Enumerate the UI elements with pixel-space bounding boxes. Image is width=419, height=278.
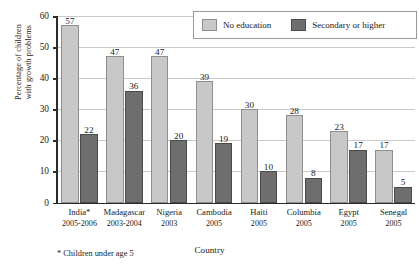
- x-tick-country: Egypt: [326, 207, 371, 218]
- x-tick-country: Cambodia: [192, 207, 237, 218]
- x-tick-year: 2005: [326, 218, 371, 229]
- bar: 17: [375, 150, 393, 203]
- x-axis-tick-labels: India*2005-2006Madagascar2003-2004Nigeri…: [56, 207, 415, 235]
- bar: 19: [215, 143, 233, 202]
- legend-swatch-no-education: [202, 19, 217, 31]
- bar-value-label: 19: [219, 134, 228, 144]
- bar: 47: [106, 56, 124, 202]
- bar-value-label: 22: [84, 125, 93, 135]
- bar-value-label: 17: [379, 140, 388, 150]
- x-tick-label: Cambodia2005: [192, 207, 237, 229]
- y-tick-label-10: 10: [40, 166, 49, 176]
- x-tick-country: Columbia: [281, 207, 326, 218]
- bar: 23: [330, 131, 348, 202]
- bar-value-label: 47: [110, 47, 119, 57]
- bar: 10: [260, 171, 278, 202]
- bar-group: 4720: [147, 16, 192, 203]
- plot-area: 0102030405060 57224736472039193010288231…: [56, 16, 415, 204]
- bar-value-label: 47: [155, 47, 164, 57]
- y-tick-label-60: 60: [40, 11, 49, 21]
- bar: 28: [286, 115, 304, 202]
- bar-value-label: 10: [264, 162, 273, 172]
- y-axis-title-line-1: Percentage of children: [14, 24, 24, 100]
- bar-value-label: 17: [354, 140, 363, 150]
- x-tick-country: Madagascar: [102, 207, 147, 218]
- bar: 30: [241, 109, 259, 202]
- bar: 57: [61, 25, 79, 202]
- bar-value-label: 28: [290, 106, 299, 116]
- bar-groups: 572247364720391930102882317175: [56, 16, 415, 203]
- bar-group: 2317: [326, 16, 371, 203]
- x-tick-label: Columbia2005: [281, 207, 326, 229]
- bar-value-label: 8: [311, 168, 316, 178]
- bar: 8: [305, 178, 323, 203]
- bar-chart: Percentage of children with growth probl…: [0, 0, 419, 278]
- bar: 22: [80, 134, 98, 202]
- y-axis-title-line-2: with growth problems: [24, 25, 34, 99]
- x-tick-label: Haiti2005: [237, 207, 282, 229]
- bar-value-label: 57: [65, 16, 74, 26]
- legend-item-no-education: No education: [202, 19, 271, 31]
- bar-group: 175: [371, 16, 416, 203]
- legend-swatch-secondary-or-higher: [291, 19, 306, 31]
- x-tick-label: Egypt2005: [326, 207, 371, 229]
- bar: 20: [170, 140, 188, 202]
- x-tick-year: 2005: [192, 218, 237, 229]
- x-tick-country: India*: [57, 207, 102, 218]
- legend-label-no-education: No education: [223, 20, 271, 30]
- bar-group: 3919: [192, 16, 237, 203]
- bar: 47: [151, 56, 169, 202]
- bar-group: 4736: [102, 16, 147, 203]
- x-tick-label: Senegal2005: [371, 207, 416, 229]
- x-tick-label: India*2005-2006: [57, 207, 102, 229]
- x-tick-year: 2005: [371, 218, 416, 229]
- bar-value-label: 36: [129, 81, 138, 91]
- bar-value-label: 20: [174, 131, 183, 141]
- y-tick-label-0: 0: [44, 198, 49, 208]
- x-tick-country: Senegal: [371, 207, 416, 218]
- bar: 17: [349, 150, 367, 203]
- bar-value-label: 30: [245, 100, 254, 110]
- x-tick-year: 2003-2004: [102, 218, 147, 229]
- y-tick-label-30: 30: [40, 104, 49, 114]
- bar: 5: [394, 187, 412, 203]
- legend: No education Secondary or higher: [193, 11, 417, 39]
- x-tick-label: Madagascar2003-2004: [102, 207, 147, 229]
- x-tick-year: 2005: [237, 218, 282, 229]
- x-axis-line: [56, 203, 415, 205]
- x-tick-label: Nigeria2003: [147, 207, 192, 229]
- x-tick-year: 2005: [281, 218, 326, 229]
- legend-item-secondary-or-higher: Secondary or higher: [291, 19, 385, 31]
- bar-group: 3010: [237, 16, 282, 203]
- legend-label-secondary-or-higher: Secondary or higher: [312, 20, 385, 30]
- y-tick-label-20: 20: [40, 135, 49, 145]
- y-tick-0: [53, 203, 58, 205]
- bar-value-label: 39: [200, 72, 209, 82]
- bar-value-label: 5: [401, 177, 406, 187]
- bar-value-label: 23: [335, 122, 344, 132]
- y-tick-label-40: 40: [40, 73, 49, 83]
- x-tick-country: Haiti: [237, 207, 282, 218]
- y-tick-label-50: 50: [40, 42, 49, 52]
- x-tick-country: Nigeria: [147, 207, 192, 218]
- y-axis-title: Percentage of children with growth probl…: [14, 0, 34, 152]
- x-tick-year: 2005-2006: [57, 218, 102, 229]
- x-tick-year: 2003: [147, 218, 192, 229]
- footnote: * Children under age 5: [57, 249, 134, 258]
- bar-group: 5722: [57, 16, 102, 203]
- bar-group: 288: [281, 16, 326, 203]
- bar: 39: [196, 81, 214, 202]
- bar: 36: [125, 91, 143, 203]
